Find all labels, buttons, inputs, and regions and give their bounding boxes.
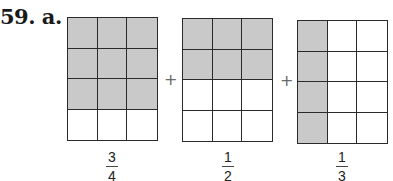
unshaded-cell — [328, 52, 358, 83]
shaded-cell — [298, 82, 328, 113]
shaded-cell — [98, 79, 128, 110]
fraction-one-third: 1 3 — [332, 150, 352, 181]
shaded-cell — [127, 18, 157, 49]
shaded-cell — [127, 49, 157, 80]
shaded-cell — [68, 49, 98, 80]
unshaded-cell — [357, 21, 387, 52]
shaded-cell — [242, 19, 272, 50]
unshaded-cell — [242, 111, 272, 142]
shaded-cell — [213, 50, 243, 81]
shaded-cell — [68, 18, 98, 49]
unshaded-cell — [213, 111, 243, 142]
numerator: 1 — [218, 150, 238, 165]
unshaded-cell — [328, 113, 358, 144]
fraction-grid-three-quarters — [67, 17, 158, 141]
shaded-cell — [213, 19, 243, 50]
unshaded-cell — [213, 80, 243, 111]
unshaded-cell — [98, 110, 128, 141]
unshaded-cell — [357, 113, 387, 144]
unshaded-cell — [183, 80, 213, 111]
numerator: 3 — [102, 150, 122, 165]
shaded-cell — [183, 19, 213, 50]
fraction-bar — [106, 166, 118, 167]
unshaded-cell — [328, 82, 358, 113]
fraction-bar — [336, 166, 348, 167]
shaded-cell — [98, 49, 128, 80]
plus-sign: + — [280, 73, 293, 89]
fraction-bar — [222, 166, 234, 167]
problem-label: 59. a. — [0, 4, 62, 29]
denominator: 2 — [218, 169, 238, 181]
fraction-three-quarters: 3 4 — [102, 150, 122, 181]
fraction-one-half: 1 2 — [218, 150, 238, 181]
shaded-cell — [127, 79, 157, 110]
numerator: 1 — [332, 150, 352, 165]
shaded-cell — [242, 50, 272, 81]
shaded-cell — [298, 52, 328, 83]
unshaded-cell — [357, 52, 387, 83]
fraction-grid-one-third — [297, 20, 388, 144]
shaded-cell — [98, 18, 128, 49]
plus-sign: + — [164, 72, 177, 88]
denominator: 4 — [102, 169, 122, 181]
unshaded-cell — [183, 111, 213, 142]
shaded-cell — [298, 21, 328, 52]
unshaded-cell — [242, 80, 272, 111]
unshaded-cell — [357, 82, 387, 113]
unshaded-cell — [68, 110, 98, 141]
shaded-cell — [68, 79, 98, 110]
denominator: 3 — [332, 169, 352, 181]
shaded-cell — [298, 113, 328, 144]
unshaded-cell — [328, 21, 358, 52]
fraction-grid-one-half — [182, 18, 273, 142]
shaded-cell — [183, 50, 213, 81]
unshaded-cell — [127, 110, 157, 141]
